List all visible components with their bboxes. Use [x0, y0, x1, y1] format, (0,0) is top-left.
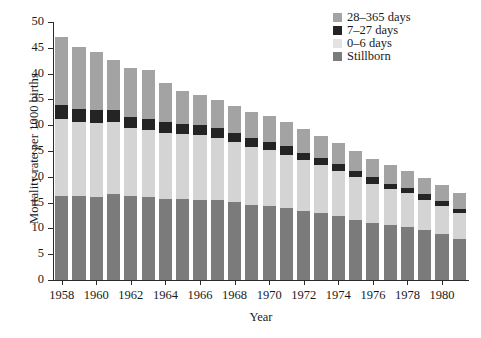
x-tick: [96, 281, 97, 285]
legend-swatch: [333, 52, 342, 61]
bar-segment: [176, 124, 189, 134]
x-tick-label: 1970: [257, 288, 282, 303]
bar-segment: [72, 109, 85, 122]
bar-segment: [418, 178, 431, 194]
x-tick: [338, 281, 339, 285]
bar-segment: [332, 216, 345, 280]
y-tick: 10: [48, 228, 53, 229]
bar-segment: [401, 227, 414, 280]
y-tick: 40: [48, 74, 53, 75]
bar: [418, 22, 431, 280]
bar-segment: [384, 189, 397, 225]
x-tick: [304, 281, 305, 285]
bar-segment: [228, 202, 241, 280]
y-tick: 0: [48, 280, 53, 281]
bar-segment: [366, 223, 379, 280]
y-tick: 5: [48, 254, 53, 255]
bar-segment: [159, 83, 172, 122]
bar: [245, 22, 258, 280]
x-tick: [442, 281, 443, 285]
bar-segment: [280, 122, 293, 147]
bar-segment: [349, 171, 362, 178]
y-tick-label: 40: [32, 66, 45, 81]
bar-segment: [453, 209, 466, 214]
bar-segment: [297, 211, 310, 280]
bar-segment: [124, 196, 137, 280]
bar-segment: [90, 197, 103, 280]
y-tick-label: 25: [32, 143, 45, 158]
bar-segment: [401, 193, 414, 227]
y-tick: 25: [48, 151, 53, 152]
x-tick: [200, 281, 201, 285]
bar-segment: [435, 201, 448, 206]
bar-segment: [366, 159, 379, 178]
x-tick-label: 1974: [326, 288, 351, 303]
bar-segment: [107, 194, 120, 280]
bar: [453, 22, 466, 280]
bar-segment: [418, 200, 431, 231]
bar-segment: [245, 205, 258, 280]
bar: [124, 22, 137, 280]
bar: [107, 22, 120, 280]
chart-legend: 28–365 days7–27 days0–6 daysStillborn: [333, 11, 411, 63]
bar-segment: [366, 177, 379, 183]
bar-segment: [418, 194, 431, 199]
bar: [435, 22, 448, 280]
bar-segment: [366, 184, 379, 223]
x-tick: [165, 281, 166, 285]
y-tick-label: 10: [32, 220, 45, 235]
bar: [280, 22, 293, 280]
bar-segment: [280, 146, 293, 154]
bar-segment: [176, 134, 189, 199]
bar-segment: [314, 136, 327, 158]
bar-segment: [107, 60, 120, 110]
x-tick-label: 1964: [153, 288, 178, 303]
x-tick-label: 1972: [291, 288, 316, 303]
y-tick: 15: [48, 203, 53, 204]
bar-segment: [159, 122, 172, 133]
bar-segment: [55, 196, 68, 280]
bar-segment: [124, 117, 137, 128]
y-tick-label: 15: [32, 195, 45, 210]
bar-segment: [280, 208, 293, 280]
bar: [314, 22, 327, 280]
bar-segment: [193, 95, 206, 125]
bar-segment: [211, 200, 224, 280]
y-tick-label: 5: [38, 246, 44, 261]
legend-swatch: [333, 13, 342, 22]
bar-segment: [384, 165, 397, 183]
y-tick: 35: [48, 99, 53, 100]
bar-segment: [193, 135, 206, 200]
bar-segment: [453, 193, 466, 208]
bar: [142, 22, 155, 280]
bar-segment: [297, 129, 310, 153]
bar-segment: [297, 153, 310, 161]
bar: [228, 22, 241, 280]
bar: [297, 22, 310, 280]
bar-segment: [142, 197, 155, 280]
bar-segment: [90, 123, 103, 197]
bar-segment: [228, 142, 241, 202]
bar-segment: [349, 220, 362, 280]
bar-segment: [193, 125, 206, 135]
bar-segment: [90, 52, 103, 110]
x-tick: [373, 281, 374, 285]
bar-segment: [263, 150, 276, 206]
x-tick-label: 1978: [395, 288, 420, 303]
bar: [193, 22, 206, 280]
y-axis-line: [53, 22, 54, 281]
bar-segment: [142, 119, 155, 130]
x-tick: [407, 281, 408, 285]
bar: [72, 22, 85, 280]
y-tick-label: 45: [32, 40, 45, 55]
bar-segment: [401, 171, 414, 188]
bar-segment: [107, 110, 120, 122]
bar-segment: [72, 196, 85, 280]
bar-segment: [55, 119, 68, 196]
x-tick: [131, 281, 132, 285]
legend-swatch: [333, 39, 342, 48]
x-tick-label: 1980: [430, 288, 455, 303]
bar-segment: [349, 177, 362, 220]
legend-item: Stillborn: [333, 50, 411, 63]
bar-segment: [107, 122, 120, 194]
